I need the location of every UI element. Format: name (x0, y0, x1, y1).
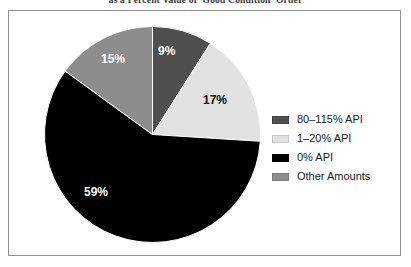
frame-top-border (8, 10, 401, 11)
frame-bottom-border (8, 255, 401, 256)
legend-color-swatch-icon (272, 135, 289, 143)
legend-item: 1–20% API (272, 129, 394, 148)
pie-slice-value-3: 15% (101, 52, 125, 66)
legend-color-swatch-icon (272, 116, 289, 124)
pie-svg (44, 26, 261, 243)
legend-item: 80–115% API (272, 110, 394, 129)
frame-right-border (400, 10, 401, 256)
legend-item-label: Other Amounts (297, 171, 370, 182)
legend-color-swatch-icon (272, 154, 289, 162)
pie-chart (44, 26, 261, 243)
legend-item-label: 1–20% API (297, 133, 351, 144)
chart-legend: 80–115% API 1–20% API 0% API Other Amoun… (272, 110, 394, 186)
legend-item: 0% API (272, 148, 394, 167)
chart-title: as a Percent Value of 'Good Condition' O… (0, 0, 411, 5)
chart-screen: as a Percent Value of 'Good Condition' O… (0, 0, 411, 267)
pie-slice-value-1: 17% (203, 93, 227, 107)
legend-item-label: 80–115% API (297, 114, 363, 125)
legend-item: Other Amounts (272, 167, 394, 186)
pie-slice-value-0: 9% (158, 44, 175, 58)
legend-color-swatch-icon (272, 173, 289, 181)
pie-slice-group (44, 27, 260, 243)
pie-slice-value-2: 59% (84, 185, 108, 199)
frame-left-border (8, 10, 9, 256)
legend-item-label: 0% API (297, 152, 333, 163)
